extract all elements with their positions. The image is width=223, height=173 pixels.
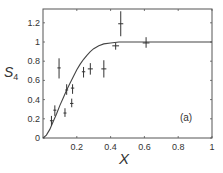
y-tick-label: 0.6	[27, 75, 40, 85]
data-point	[143, 37, 150, 48]
data-point	[112, 43, 119, 50]
x-tick-label: 1	[209, 142, 214, 152]
x-tick-label: 0.2	[71, 142, 84, 152]
fit-curve	[43, 42, 212, 138]
data-point	[82, 67, 85, 78]
y-tick-label: 0.8	[27, 56, 40, 66]
x-axis-title: X	[118, 150, 130, 167]
x-tick-label: 0.8	[172, 142, 185, 152]
y-tick-label: 1	[35, 37, 40, 47]
x-axis-ticks: 0.20.40.60.81	[71, 9, 215, 152]
y-tick-label: 0	[35, 133, 40, 143]
data-point	[118, 11, 123, 36]
y-tick-label: 0.4	[27, 95, 40, 105]
y-axis-title: S4	[4, 64, 18, 82]
data-points	[50, 11, 150, 125]
x-tick-label: 0.4	[104, 142, 117, 152]
panel-label: (a)	[180, 112, 192, 123]
data-point	[57, 58, 60, 78]
x-tick-label: 0.6	[138, 142, 151, 152]
data-point	[70, 99, 73, 108]
data-point	[63, 108, 66, 117]
chart: 00.20.40.60.811.2 0.20.40.60.81 X S4 (a)	[0, 0, 223, 173]
data-point	[71, 84, 74, 94]
fit-curve-path	[43, 42, 212, 138]
y-axis-title-subscript: 4	[13, 72, 18, 82]
data-point	[101, 60, 106, 77]
y-tick-label: 1.2	[27, 18, 40, 28]
y-axis-ticks: 00.20.40.60.811.2	[27, 18, 212, 143]
y-tick-label: 0.2	[27, 114, 40, 124]
data-point	[88, 63, 93, 75]
